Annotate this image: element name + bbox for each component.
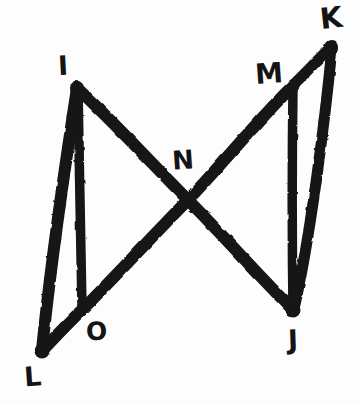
geometry-figure-svg [0, 0, 361, 405]
vertex-label-L: L [23, 362, 42, 390]
segment-IO [78, 88, 82, 309]
vertex-dot-I [70, 81, 84, 95]
vertex-label-I: I [57, 52, 68, 79]
vertex-dot-J [286, 303, 301, 318]
segment-MJ [292, 86, 293, 309]
vertex-dot-M [287, 80, 300, 93]
segment-KJ [294, 48, 332, 309]
geometry-figure-canvas: I K M N O J L [0, 0, 361, 405]
vertex-label-J: J [288, 326, 299, 353]
vertex-label-K: K [319, 3, 344, 34]
vertex-label-N: N [171, 146, 195, 173]
vertex-dot-L [35, 344, 50, 359]
vertex-label-M: M [254, 59, 284, 89]
vertex-dot-N [181, 193, 195, 207]
vertex-dot-O [76, 304, 88, 316]
vertex-dot-K [324, 40, 338, 54]
segment-IL [42, 88, 77, 350]
vertex-label-O: O [86, 319, 108, 345]
